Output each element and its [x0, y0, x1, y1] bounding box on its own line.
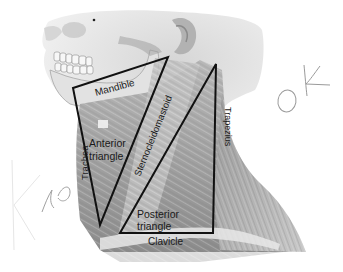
hyoid-bone	[98, 120, 108, 128]
label-trachea: Trachea	[79, 145, 90, 180]
label-posterior-triangle-line2: triangle	[137, 220, 172, 232]
label-trapezius: Trapezius	[223, 107, 233, 147]
label-anterior-triangle-line1: Anterior	[89, 137, 126, 149]
handwritten-ok-annotation	[276, 65, 330, 113]
faint-k-annotation	[12, 160, 40, 250]
neck-anatomy-diagram: Mandible Anterior triangle Sternocleidom…	[0, 0, 343, 272]
label-posterior-triangle-line1: Posterior	[137, 208, 180, 220]
label-clavicle: Clavicle	[148, 236, 183, 247]
handwritten-no-annotation	[42, 187, 70, 212]
label-anterior-triangle-line2: triangle	[89, 150, 124, 162]
